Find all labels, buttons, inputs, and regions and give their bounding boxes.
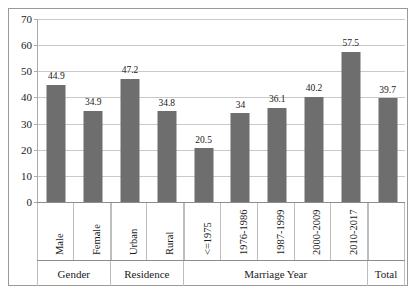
bar-value-label: 57.5	[342, 39, 359, 49]
y-axis-tick-label: 30	[21, 118, 32, 129]
group-axis-label: Residence	[111, 261, 185, 286]
bar[interactable]	[47, 85, 66, 202]
plot-area: 010203040506070 44.934.947.234.820.53436…	[37, 19, 405, 202]
group-axis-label: Marriage Year	[184, 261, 368, 286]
category-label-band: MaleFemaleUrbanRural<=19751976-19861987-…	[37, 202, 405, 260]
category-axis-label: 1976-1986	[239, 210, 250, 256]
bar[interactable]	[304, 97, 323, 202]
category-axis-label: 2000-2009	[312, 210, 323, 256]
category-cell: 2010-2017	[331, 203, 368, 260]
category-axis-label: <=1975	[203, 222, 214, 255]
bar[interactable]	[341, 52, 360, 202]
category-cell: 1987-1999	[258, 203, 295, 260]
category-axis-label: Urban	[129, 229, 140, 255]
category-cell: Female	[74, 203, 111, 260]
bar-value-label: 34.9	[85, 98, 102, 108]
bar-value-label: 39.7	[379, 86, 396, 96]
bar-slot: 40.2	[296, 19, 333, 202]
bar-value-label: 47.2	[122, 66, 139, 76]
bar[interactable]	[378, 98, 397, 202]
category-axis-label: Rural	[165, 232, 176, 255]
y-axis-tick-label: 0	[27, 197, 33, 208]
category-cell: Male	[37, 203, 74, 260]
bar-value-label: 40.2	[306, 84, 323, 94]
group-label-band: GenderResidenceMarriage YearTotal	[37, 260, 405, 286]
category-cell: <=1975	[184, 203, 221, 260]
y-axis-tick-label: 70	[21, 14, 32, 25]
category-cell: Rural	[147, 203, 184, 260]
bar-slot: 57.5	[332, 19, 369, 202]
bar-slot: 34.9	[75, 19, 112, 202]
category-axis-label: Female	[92, 224, 103, 255]
category-axis-label: 1987-1999	[276, 210, 287, 256]
bar-value-label: 34.8	[158, 99, 175, 109]
plot-wrapper: 010203040506070 44.934.947.234.820.53436…	[37, 19, 405, 202]
y-axis-tick-label: 40	[21, 92, 32, 103]
bar-slot: 34	[222, 19, 259, 202]
bar-value-label: 34	[236, 101, 246, 111]
category-cell: 2000-2009	[295, 203, 332, 260]
bar-slot: 39.7	[369, 19, 406, 202]
y-axis-tick-label: 50	[21, 66, 32, 77]
bar-value-label: 44.9	[48, 72, 65, 82]
group-axis-label: Total	[368, 261, 405, 286]
bar[interactable]	[194, 148, 213, 202]
chart-figure: 010203040506070 44.934.947.234.820.53436…	[0, 0, 416, 294]
category-cell	[368, 203, 405, 260]
bar[interactable]	[268, 108, 287, 202]
bar[interactable]	[84, 111, 103, 202]
group-axis-label: Gender	[37, 261, 111, 286]
bar-value-label: 20.5	[195, 136, 212, 146]
bar-slot: 20.5	[185, 19, 222, 202]
bar-slot: 36.1	[259, 19, 296, 202]
category-axis-label: 2010-2017	[349, 210, 360, 256]
y-axis-tick-label: 10	[21, 170, 32, 181]
y-axis-tick-label: 60	[21, 40, 32, 51]
y-axis-tick-label: 20	[21, 144, 32, 155]
category-cell: 1976-1986	[221, 203, 258, 260]
bar[interactable]	[231, 113, 250, 202]
bar[interactable]	[157, 111, 176, 202]
bar-slot: 44.9	[38, 19, 75, 202]
category-axis-label: Male	[55, 233, 66, 255]
bar-slot: 47.2	[112, 19, 149, 202]
bar[interactable]	[120, 79, 139, 202]
bar-value-label: 36.1	[269, 95, 286, 105]
bar-slot: 34.8	[148, 19, 185, 202]
bar-series: 44.934.947.234.820.53436.140.257.539.7	[38, 19, 405, 202]
category-cell: Urban	[111, 203, 148, 260]
